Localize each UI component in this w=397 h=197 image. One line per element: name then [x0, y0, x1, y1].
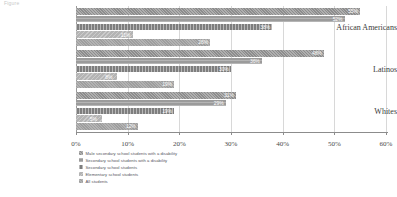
bar-row: 55% — [76, 8, 386, 15]
bar-african-americans-series-0[interactable] — [76, 8, 360, 15]
x-axis-tick-label: 40% — [276, 140, 289, 148]
bar-value-label: 19% — [161, 108, 173, 114]
legend-item-0[interactable]: Male secondary school students with a di… — [79, 150, 379, 156]
bar-value-label: 29% — [213, 100, 225, 106]
legend-swatch-icon — [79, 179, 83, 183]
legend-label: Secondary school students with a disabil… — [86, 158, 168, 163]
x-axis-tick-label: 10% — [121, 140, 134, 148]
tick-mark — [231, 132, 232, 135]
legend-swatch-icon — [79, 151, 83, 155]
legend-label: Male secondary school students with a di… — [86, 151, 178, 156]
bar-value-label: 30% — [218, 66, 230, 72]
bar-row: 5% — [76, 115, 386, 122]
bar-latinos-series-4[interactable] — [76, 81, 174, 88]
bar-african-americans-series-4[interactable] — [76, 39, 210, 46]
legend-item-4[interactable]: All students — [79, 178, 379, 184]
bar-row: 38% — [76, 24, 386, 31]
bar-latinos-series-1[interactable] — [76, 58, 262, 65]
bar-row: 48% — [76, 50, 386, 57]
bar-value-label: 8% — [104, 74, 113, 80]
tick-mark — [76, 132, 77, 135]
legend-item-1[interactable]: Secondary school students with a disabil… — [79, 157, 379, 163]
bar-value-label: 48% — [311, 50, 323, 56]
x-axis-line — [76, 132, 388, 133]
x-axis-tick-label: 50% — [328, 140, 341, 148]
legend-swatch-icon — [79, 172, 83, 176]
bar-row: 19% — [76, 81, 386, 88]
chart-legend: Male secondary school students with a di… — [79, 150, 379, 185]
bar-african-americans-series-1[interactable] — [76, 16, 345, 23]
tick-mark — [283, 132, 284, 135]
legend-label: Elementary school students — [86, 172, 139, 177]
legend-label: Secondary school students — [86, 165, 138, 170]
bar-row: 30% — [76, 66, 386, 73]
bar-row: 12% — [76, 123, 386, 130]
tick-mark — [334, 132, 335, 135]
bar-value-label: 19% — [161, 81, 173, 87]
bar-row: 52% — [76, 16, 386, 23]
bar-value-label: 52% — [332, 16, 344, 22]
bar-african-americans-series-2[interactable] — [76, 24, 272, 31]
bar-latinos-series-0[interactable] — [76, 50, 324, 57]
bar-row: 8% — [76, 73, 386, 80]
legend-item-3[interactable]: Elementary school students — [79, 171, 379, 177]
tick-mark — [179, 132, 180, 135]
bar-row: 19% — [76, 108, 386, 115]
bar-whites-series-0[interactable] — [76, 92, 236, 99]
bar-row: 11% — [76, 31, 386, 38]
legend-swatch-icon — [79, 165, 83, 169]
bar-value-label: 31% — [223, 92, 235, 98]
bar-whites-series-2[interactable] — [76, 108, 174, 115]
x-axis-tick-label: 30% — [225, 140, 238, 148]
tick-mark — [386, 132, 387, 135]
bar-whites-series-1[interactable] — [76, 100, 226, 107]
bar-row: 31% — [76, 92, 386, 99]
legend-item-2[interactable]: Secondary school students — [79, 164, 379, 170]
bar-value-label: 11% — [120, 32, 131, 38]
bar-value-label: 12% — [125, 123, 137, 129]
bar-latinos-series-2[interactable] — [76, 66, 231, 73]
legend-swatch-icon — [79, 158, 83, 162]
bar-value-label: 55% — [347, 8, 359, 14]
legend-label: All students — [86, 179, 108, 184]
bar-value-label: 36% — [249, 58, 261, 64]
bar-value-label: 5% — [89, 116, 98, 122]
x-axis-tick-label: 60% — [380, 140, 393, 148]
bar-chart: 0%10%20%30%40%50%60%African Americans55%… — [0, 6, 397, 136]
bar-value-label: 38% — [259, 24, 271, 30]
bar-row: 29% — [76, 100, 386, 107]
x-axis-tick-label: 0% — [71, 140, 80, 148]
tick-mark — [128, 132, 129, 135]
bar-row: 26% — [76, 39, 386, 46]
bar-value-label: 26% — [197, 39, 209, 45]
x-axis-tick-label: 20% — [173, 140, 186, 148]
bar-row: 36% — [76, 58, 386, 65]
